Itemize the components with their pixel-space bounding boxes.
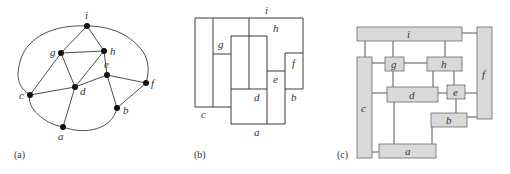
node-label-g: g [50, 46, 56, 58]
dual-label-a: a [254, 126, 260, 138]
block-label-g: g [391, 58, 397, 70]
dual-label-i: i [265, 4, 268, 16]
node-i [84, 23, 90, 29]
edge-e-b [107, 75, 117, 108]
block-label-d: d [409, 89, 415, 101]
edge-a-b [63, 108, 117, 131]
node-d [72, 84, 78, 90]
dual-label-c: c [201, 108, 206, 120]
dual-label-g: g [218, 38, 224, 50]
edge-g-h [61, 51, 104, 53]
edge-c-d [30, 87, 75, 95]
edge-i-g [61, 26, 87, 53]
node-h [101, 48, 107, 54]
edge-f-b [117, 83, 146, 108]
node-b [114, 105, 120, 111]
block-label-b: b [446, 114, 452, 126]
panel-c-floorplan: i f c g h d e b a (c) [337, 27, 492, 161]
node-label-e: e [104, 58, 109, 70]
edge-e-f [107, 75, 146, 83]
edge-i-f [87, 26, 148, 83]
node-c [27, 92, 33, 98]
figure-canvas: i g h e f d c b a (a) [0, 0, 510, 174]
block-label-i: i [407, 28, 410, 40]
node-f [143, 80, 149, 86]
panel-caption-b: (b) [194, 149, 206, 161]
node-label-c: c [19, 89, 24, 101]
node-g [58, 50, 64, 56]
dual-label-f: f [292, 57, 297, 69]
dual-label-h: h [273, 22, 279, 34]
edge-g-c [30, 53, 61, 95]
edge-i-h [87, 26, 104, 51]
block-label-h: h [441, 58, 447, 70]
panel-b-rectangular-dual: i h g f e d c b a (b) [194, 4, 303, 161]
node-label-a: a [58, 130, 64, 142]
node-label-h: h [110, 45, 116, 57]
block-label-e: e [453, 86, 458, 98]
edge-d-a [63, 87, 75, 127]
dual-label-d: d [254, 91, 260, 103]
node-e [104, 72, 110, 78]
dual-label-e: e [273, 73, 278, 85]
node-label-b: b [123, 104, 129, 116]
node-label-f: f [151, 77, 156, 89]
edge-g-d [61, 53, 75, 87]
panel-a-graph: i g h e f d c b a (a) [14, 9, 156, 161]
edge-c-a [29, 95, 63, 127]
panel-caption-c: (c) [337, 149, 348, 161]
node-label-i: i [85, 9, 88, 21]
node-label-d: d [80, 85, 86, 97]
block-label-a: a [405, 145, 411, 157]
dual-label-b: b [291, 91, 297, 103]
block-label-c: c [361, 102, 366, 114]
panel-caption-a: (a) [14, 149, 25, 161]
